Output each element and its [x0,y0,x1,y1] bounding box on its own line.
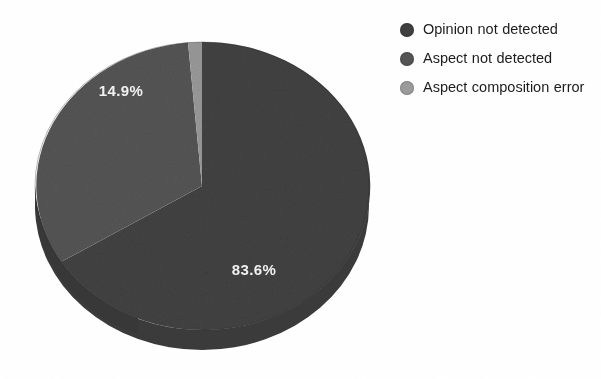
legend-label: Opinion not detected [423,20,558,39]
legend-swatch-icon [400,52,414,66]
slice-label-major: 83.6% [232,261,277,278]
legend-item-aspect-composition-error[interactable]: Aspect composition error [400,78,596,97]
legend-item-aspect-not-detected[interactable]: Aspect not detected [400,49,596,68]
legend-label: Aspect composition error [423,78,584,97]
legend-swatch-icon [400,81,414,95]
pie-chart-svg: 83.6% 14.9% [18,18,388,363]
chart-legend: Opinion not detected Aspect not detected… [400,20,596,107]
pie-chart: 83.6% 14.9% [18,18,388,363]
legend-item-opinion-not-detected[interactable]: Opinion not detected [400,20,596,39]
pie-chart-figure: 83.6% 14.9% Opinion not detected Aspect … [0,0,601,379]
legend-label: Aspect not detected [423,49,552,68]
legend-swatch-icon [400,23,414,37]
slice-label-minor: 14.9% [99,82,144,99]
